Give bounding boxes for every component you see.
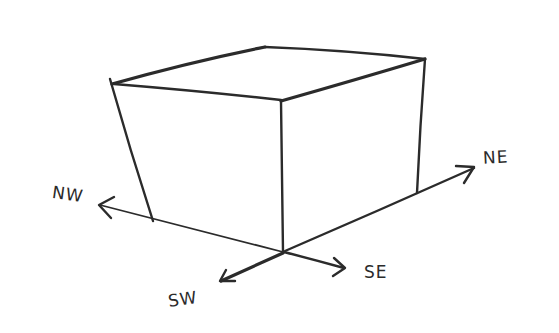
- ne-axis-line: [285, 168, 474, 251]
- cube-compass-sketch: [0, 0, 559, 333]
- sw-axis-line: [221, 253, 283, 281]
- se-label: SE: [364, 264, 388, 281]
- cube-top-front-left-edge: [114, 84, 281, 100]
- cube-left-vertical-edge: [110, 79, 153, 221]
- cube: [110, 47, 425, 252]
- cube-top-back-right-edge: [265, 47, 425, 59]
- cube-front-vertical-edge: [281, 101, 283, 252]
- sw-label: SW: [167, 289, 199, 310]
- nw-axis-line: [100, 205, 283, 252]
- ne-label: NE: [483, 148, 509, 166]
- nw-label: NW: [51, 184, 85, 205]
- cube-top-front-right-edge: [281, 59, 425, 101]
- cube-right-vertical-edge: [417, 59, 425, 193]
- cube-top-back-left-edge: [112, 47, 265, 84]
